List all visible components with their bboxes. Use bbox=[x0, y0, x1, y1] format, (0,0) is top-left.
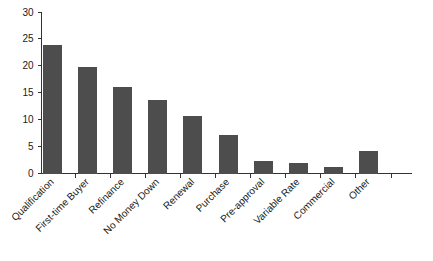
x-category-label: Renewal bbox=[161, 176, 196, 211]
bar bbox=[43, 45, 62, 174]
y-tick-label: 30 bbox=[22, 7, 34, 18]
category-label-group: QualificationFirst-time BuyerRefinanceNo… bbox=[9, 176, 372, 237]
y-tick-label: 20 bbox=[22, 60, 34, 71]
bar bbox=[254, 161, 273, 173]
bar bbox=[148, 100, 167, 173]
y-tick-group: 051015202530 bbox=[22, 7, 41, 180]
y-tick-label: 5 bbox=[28, 141, 34, 152]
bar bbox=[183, 116, 202, 173]
bar bbox=[359, 151, 378, 174]
bar-chart: 051015202530 QualificationFirst-time Buy… bbox=[0, 0, 433, 261]
y-tick-label: 10 bbox=[22, 114, 34, 125]
y-tick-label: 15 bbox=[22, 87, 34, 98]
x-category-label: Other bbox=[346, 176, 372, 202]
bar bbox=[289, 163, 308, 173]
y-tick-label: 0 bbox=[28, 168, 34, 179]
chart-canvas: 051015202530 QualificationFirst-time Buy… bbox=[0, 0, 433, 261]
bar bbox=[219, 135, 238, 174]
x-tick-group bbox=[75, 174, 391, 178]
bar bbox=[324, 167, 343, 173]
bar bbox=[113, 87, 132, 173]
bar-group bbox=[43, 45, 378, 174]
plot-area: 051015202530 QualificationFirst-time Buy… bbox=[0, 0, 433, 261]
bar bbox=[78, 67, 97, 174]
y-tick-label: 25 bbox=[22, 33, 34, 44]
